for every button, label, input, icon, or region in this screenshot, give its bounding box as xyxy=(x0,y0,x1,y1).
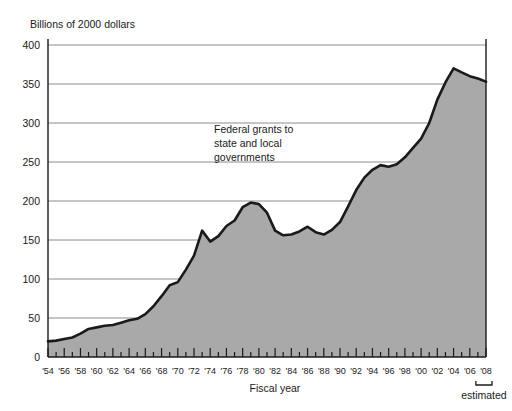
y-tick-label: 300 xyxy=(22,117,40,129)
estimated-label: estimated xyxy=(461,389,507,401)
y-tick-label: 50 xyxy=(28,312,40,324)
y-tick-label: 400 xyxy=(22,39,40,51)
y-tick-label: 100 xyxy=(22,273,40,285)
annotation-line: Federal grants to xyxy=(214,123,294,135)
y-tick-label: 250 xyxy=(22,156,40,168)
x-tick-label: '68 xyxy=(156,366,168,376)
x-tick-label: '96 xyxy=(383,366,395,376)
x-tick-label: '72 xyxy=(188,366,200,376)
x-tick-label: '80 xyxy=(253,366,265,376)
x-tick-label: '62 xyxy=(107,366,119,376)
x-tick-label: '76 xyxy=(221,366,233,376)
estimated-bracket xyxy=(476,381,492,385)
series-annotation: Federal grants tostate and localgovernme… xyxy=(214,123,294,163)
x-tick-label: '02 xyxy=(431,366,443,376)
x-tick-label: '06 xyxy=(464,366,476,376)
x-tick-label: '58 xyxy=(75,366,87,376)
x-tick-label: '98 xyxy=(399,366,411,376)
x-tick-label: '64 xyxy=(123,366,135,376)
x-tick-label: '88 xyxy=(318,366,330,376)
x-tick-label: '74 xyxy=(204,366,216,376)
x-tick-label: '82 xyxy=(269,366,281,376)
annotation-line: state and local xyxy=(214,137,282,149)
y-tick-label: 350 xyxy=(22,78,40,90)
data-area-group xyxy=(48,68,486,357)
x-tick-label: '94 xyxy=(367,366,379,376)
x-tick-label: '56 xyxy=(58,366,70,376)
x-tick-label: '86 xyxy=(302,366,314,376)
y-tick-label: 0 xyxy=(34,351,40,363)
x-tick-label: '92 xyxy=(350,366,362,376)
axis-caption-group: Fiscal yearestimated xyxy=(250,381,507,401)
y-axis-tick-labels: 050100150200250300350400 xyxy=(22,39,40,363)
x-tick-label: '70 xyxy=(172,366,184,376)
area-chart-svg: 050100150200250300350400 '54'56'58'60'62… xyxy=(0,0,512,411)
chart-container: Billions of 2000 dollars 050100150200250… xyxy=(0,0,512,411)
x-tick-label: '78 xyxy=(237,366,249,376)
x-tick-label: '00 xyxy=(415,366,427,376)
x-tick-label: '84 xyxy=(285,366,297,376)
x-tick-label: '60 xyxy=(91,366,103,376)
y-tick-label: 200 xyxy=(22,195,40,207)
y-tick-label: 150 xyxy=(22,234,40,246)
annotation-line: governments xyxy=(214,151,275,163)
x-tick-label: '90 xyxy=(334,366,346,376)
x-axis-caption: Fiscal year xyxy=(250,382,301,394)
x-tick-label: '66 xyxy=(139,366,151,376)
x-tick-label: '08 xyxy=(480,366,492,376)
x-tick-label: '54 xyxy=(42,366,54,376)
x-tick-label: '04 xyxy=(448,366,460,376)
